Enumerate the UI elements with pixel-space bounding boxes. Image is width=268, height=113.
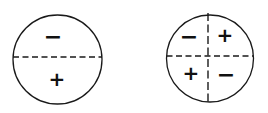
diagram-canvas: − + − + + − [0,0,268,113]
four-region-circle: − + + − [167,13,254,104]
minus-sign-top-left: − [180,24,198,49]
plus-sign-bottom: + [49,67,66,91]
plus-sign-bottom-left: + [183,61,200,85]
two-region-circle: − + [13,15,102,104]
minus-sign-top: − [44,24,62,49]
minus-sign-bottom-right: − [217,62,235,87]
plus-sign-top-right: + [217,23,234,47]
